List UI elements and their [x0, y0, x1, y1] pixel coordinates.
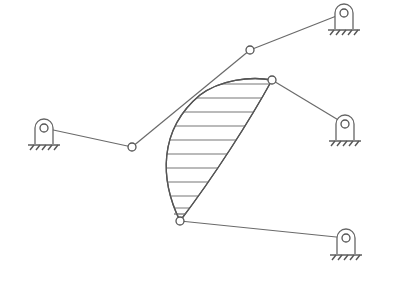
link-B-to-top-right	[250, 13, 344, 50]
ground-support-bottom-right	[330, 229, 362, 260]
joint-A-icon	[128, 143, 136, 151]
joint-B-icon	[246, 46, 254, 54]
pivot-icon	[40, 124, 48, 132]
pivot-icon	[342, 234, 350, 242]
link-D-to-bottom-right	[180, 221, 346, 238]
coupler-link	[150, 79, 290, 221]
linkage-diagram	[0, 0, 397, 289]
pivot-icon	[341, 120, 349, 128]
ground-support-top-right	[328, 4, 360, 35]
pivot-icon	[340, 9, 348, 17]
joint-D-icon	[176, 217, 184, 225]
ground-support-left	[28, 119, 60, 150]
link-left-to-A	[44, 128, 132, 147]
joint-C-icon	[268, 76, 276, 84]
ground-support-mid-right	[329, 115, 361, 146]
link-C-to-mid-right	[272, 80, 345, 124]
coupler-outline	[166, 79, 272, 221]
